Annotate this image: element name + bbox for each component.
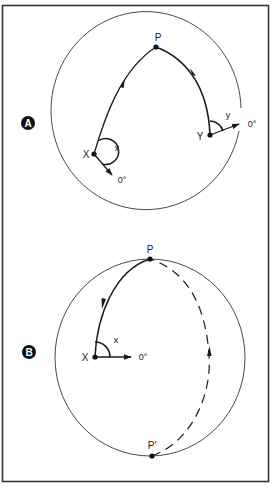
panel-a-arc-p-to-y [156, 47, 210, 135]
panel-a-sphere-outline [51, 12, 241, 210]
panel-b-label-x: X [82, 352, 89, 363]
panel-b-badge-label: B [25, 347, 32, 358]
panel-b-label-p: P [147, 244, 154, 255]
panel-b-dashed-arrow-icon [207, 346, 212, 356]
diagram-frame [3, 6, 269, 482]
panel-a-angle-label-y: y [226, 110, 231, 120]
panel-b-angle-label-x: x [114, 335, 119, 345]
spherical-bearing-diagram: A P X x 0° Y [0, 0, 276, 491]
panel-a-reference-arrow-y-icon [210, 124, 239, 135]
panel-a-zero-label-y: 0° [248, 119, 257, 129]
panel-a-label-p: P [155, 32, 162, 43]
panel-b-point-p-prime [149, 453, 154, 458]
panel-a-zero-label-x: 0° [118, 175, 127, 185]
panel-b-label-p-prime: P′ [148, 440, 157, 451]
panel-a: A P X x 0° Y [21, 12, 257, 210]
panel-a-angle-arc-y [210, 121, 223, 131]
panel-b-angle-arc-x [95, 342, 110, 357]
panel-a-label-x: X [83, 149, 90, 160]
panel-a-angle-label-x: x [115, 143, 120, 153]
panel-a-badge-label: A [24, 118, 31, 129]
panel-b-arc-p-to-x [95, 259, 150, 357]
panel-a-label-y: Y [197, 131, 204, 142]
panel-b: B P P′ X x 0° [22, 244, 245, 459]
panel-b-badge: B [22, 345, 36, 359]
panel-b-dashed-back-arc [150, 259, 209, 456]
panel-b-point-p [147, 256, 152, 261]
panel-a-arc-arrow-icon [120, 79, 125, 88]
panel-b-zero-label-x: 0° [139, 352, 148, 362]
panel-a-point-p [153, 44, 158, 49]
panel-a-badge: A [21, 116, 35, 130]
